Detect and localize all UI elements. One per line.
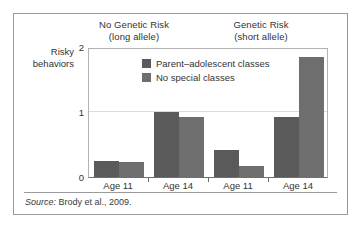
axis-tick	[148, 178, 149, 182]
bar	[119, 162, 144, 177]
source-divider	[24, 192, 337, 193]
y-tick-label: 2	[66, 42, 84, 53]
panel-header-line2: (short allele)	[206, 31, 316, 43]
gridline	[89, 111, 327, 112]
figure-panel: No Genetic Risk (long allele) Genetic Ri…	[13, 13, 348, 215]
x-tick-label: Age 14	[268, 180, 328, 191]
source-label: Source:	[25, 197, 56, 207]
axis-tick	[208, 178, 209, 182]
x-tick-label: Age 14	[148, 180, 208, 191]
bar	[239, 166, 264, 177]
y-axis-title: Risky behaviors	[12, 46, 74, 69]
legend-label: Parent–adolescent classes	[156, 58, 270, 69]
panel-header-line1: No Genetic Risk	[99, 19, 169, 30]
x-tick-label: Age 11	[88, 180, 148, 191]
y-axis-title-line2: behaviors	[12, 58, 74, 70]
bar	[214, 150, 239, 177]
panel-header-line1: Genetic Risk	[233, 19, 288, 30]
legend-label: No special classes	[156, 72, 235, 83]
x-tick-label: Age 11	[208, 180, 268, 191]
y-tick-label: 0	[66, 172, 84, 183]
axis-tick	[268, 178, 269, 182]
source-citation: Brody et al., 2009.	[56, 197, 132, 207]
y-tick-label: 1	[66, 107, 84, 118]
source-note: Source: Brody et al., 2009.	[25, 197, 132, 207]
legend-item: No special classes	[142, 72, 270, 83]
bar	[299, 57, 324, 177]
legend-swatch-icon	[142, 73, 151, 82]
bar	[179, 117, 204, 177]
panel-header-no-genetic-risk: No Genetic Risk (long allele)	[74, 19, 194, 42]
bar	[274, 117, 299, 177]
panel-header-line2: (long allele)	[74, 31, 194, 43]
panel-header-genetic-risk: Genetic Risk (short allele)	[206, 19, 316, 42]
legend-swatch-icon	[142, 59, 151, 68]
bar	[94, 161, 119, 177]
legend-item: Parent–adolescent classes	[142, 58, 270, 69]
chart-legend: Parent–adolescent classesNo special clas…	[142, 58, 270, 86]
bar	[154, 112, 179, 177]
